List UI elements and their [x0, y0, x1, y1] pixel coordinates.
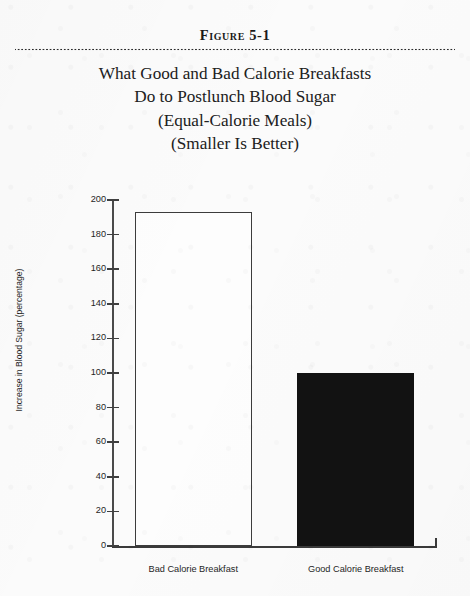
y-axis-tick [107, 372, 119, 374]
y-axis-tick-label: 80 [46, 403, 106, 412]
y-axis-tick [107, 407, 119, 409]
x-axis-category-label: Good Calorie Breakfast [275, 564, 438, 574]
y-axis-tick [107, 268, 119, 270]
y-axis-tick [107, 199, 119, 201]
figure-title: What Good and Bad Calorie Breakfasts Do … [0, 62, 470, 156]
y-axis-tick-label: 160 [46, 264, 106, 273]
figure-title-line-3: (Equal-Calorie Meals) [0, 109, 470, 133]
bar-good-calorie-breakfast[interactable] [297, 373, 414, 546]
y-axis-tick-label: 20 [46, 506, 106, 515]
y-axis-tick-label: 120 [46, 333, 106, 342]
y-axis-tick [107, 303, 119, 305]
y-axis-title: Increase in Blood Sugar (percentage) [14, 235, 24, 445]
figure-number: Figure 5-1 [0, 28, 470, 43]
y-axis-tick-label: 60 [46, 437, 106, 446]
y-axis-tick-label: 100 [46, 368, 106, 377]
y-axis-tick [107, 234, 119, 236]
dotted-divider [15, 48, 455, 51]
y-axis-tick-label: 40 [46, 472, 106, 481]
plot-area: 020406080100120140160180200Bad Calorie B… [112, 200, 437, 546]
y-axis-tick [107, 441, 119, 443]
figure-title-line-1: What Good and Bad Calorie Breakfasts [0, 62, 470, 86]
figure-title-line-4: (Smaller Is Better) [0, 132, 470, 156]
x-axis-end-tick [435, 538, 437, 548]
bar-bad-calorie-breakfast[interactable] [135, 212, 252, 546]
y-axis-tick [107, 545, 119, 547]
y-axis-tick-label: 180 [46, 230, 106, 239]
x-axis-line [112, 546, 437, 548]
figure-title-line-2: Do to Postlunch Blood Sugar [0, 85, 470, 109]
bar-chart: Increase in Blood Sugar (percentage) 020… [0, 185, 470, 585]
y-axis-tick-label: 0 [46, 541, 106, 550]
figure-header: Figure 5-1 [0, 0, 470, 51]
y-axis-tick [107, 476, 119, 478]
y-axis-tick-label: 140 [46, 299, 106, 308]
y-axis-tick-label: 200 [46, 195, 106, 204]
y-axis-tick [107, 338, 119, 340]
x-axis-category-label: Bad Calorie Breakfast [112, 564, 275, 574]
y-axis-tick [107, 511, 119, 513]
